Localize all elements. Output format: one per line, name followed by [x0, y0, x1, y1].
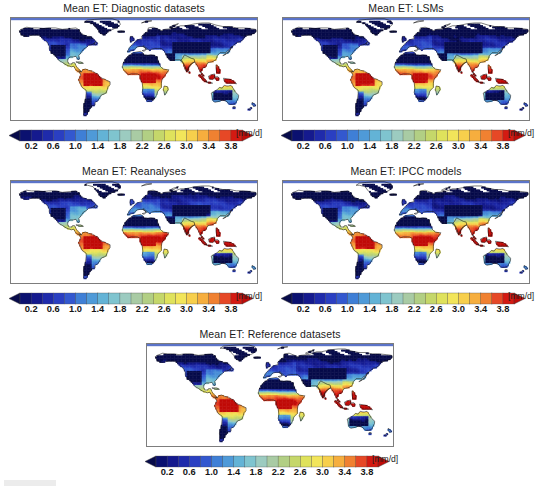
- colorbar-tick-label: 3.8: [224, 304, 237, 314]
- colorbar-segment: [470, 293, 481, 304]
- colorbar-segment: [348, 293, 359, 304]
- panel-title-lsms: Mean ET: LSMs: [274, 2, 538, 14]
- colorbar-tick-label: 3.8: [496, 141, 509, 151]
- polar-band: [11, 18, 257, 20]
- colorbar-segment: [370, 130, 381, 141]
- colorbar-tick-label: 2.2: [136, 304, 149, 314]
- colorbar-segment: [459, 293, 470, 304]
- colorbar-tick-label: 1.4: [363, 141, 376, 151]
- colorbar-tick-label: 2.2: [136, 141, 149, 151]
- colorbar-tick-label: 0.6: [183, 467, 196, 477]
- colorbar-tick-label: 0.2: [297, 141, 310, 151]
- colorbar-reference: [mm/d] 0.20.61.01.41.82.22.63.03.43.8: [144, 454, 396, 488]
- panel-title-reference: Mean ET: Reference datasets: [138, 328, 402, 340]
- map-diagnostic: [10, 17, 258, 121]
- colorbar-under-arrow: [9, 293, 20, 304]
- colorbar-segment: [220, 130, 231, 141]
- colorbar-segment: [156, 456, 167, 467]
- colorbar-segment: [325, 130, 336, 141]
- colorbar-segment: [31, 293, 42, 304]
- et-figure: Mean ET: Diagnostic datasets [mm/d] 0.20…: [0, 0, 542, 495]
- world-et-map: [11, 18, 257, 120]
- colorbar-tick-label: 3.4: [474, 304, 487, 314]
- colorbar-segment: [447, 293, 458, 304]
- colorbar-unit-label: [mm/d]: [508, 128, 534, 138]
- colorbar-segment: [292, 130, 303, 141]
- colorbar-tick-label: 1.0: [69, 141, 82, 151]
- colorbar-segment: [198, 130, 209, 141]
- colorbar-segment: [278, 456, 289, 467]
- colorbar-segment: [153, 293, 164, 304]
- colorbar-segment: [470, 130, 481, 141]
- colorbar-tick-label: 0.2: [25, 141, 38, 151]
- colorbar-tick-label: 0.6: [319, 141, 332, 151]
- colorbar-tick-label: 1.4: [363, 304, 376, 314]
- colorbar-tick-label: 3.0: [452, 304, 465, 314]
- colorbar-tick-label: 0.6: [319, 304, 332, 314]
- panel-title-reanalyses: Mean ET: Reanalyses: [2, 165, 266, 177]
- colorbar-segment: [187, 293, 198, 304]
- colorbar-segment: [481, 130, 492, 141]
- colorbar-segment: [267, 456, 278, 467]
- colorbar-segment: [131, 293, 142, 304]
- colorbar-segment: [223, 456, 234, 467]
- colorbar-tick-label: 2.2: [408, 141, 421, 151]
- colorbar-segment: [403, 293, 414, 304]
- colorbar-segment: [189, 456, 200, 467]
- colorbar-segment: [359, 130, 370, 141]
- colorbar-segment: [381, 130, 392, 141]
- colorbar-segment: [178, 456, 189, 467]
- colorbar-under-arrow: [9, 130, 20, 141]
- colorbar-unit-label: [mm/d]: [236, 128, 262, 138]
- colorbar-segment: [392, 130, 403, 141]
- colorbar-tick-label: 1.0: [341, 304, 354, 314]
- colorbar-segment: [120, 130, 131, 141]
- colorbar-segment: [120, 293, 131, 304]
- colorbar-segment: [209, 293, 220, 304]
- colorbar-tick-label: 3.0: [180, 141, 193, 151]
- colorbar-segment: [53, 130, 64, 141]
- colorbar-under-arrow: [281, 130, 292, 141]
- colorbar-segment: [336, 130, 347, 141]
- colorbar-segment: [175, 293, 186, 304]
- polar-band: [11, 181, 257, 183]
- colorbar-tick-label: 1.0: [205, 467, 218, 477]
- colorbar-segment: [289, 456, 300, 467]
- colorbar-segment: [256, 456, 267, 467]
- colorbar-segment: [245, 456, 256, 467]
- map-ipcc: [282, 180, 530, 284]
- colorbar-segment: [164, 293, 175, 304]
- colorbar-tick-label: 1.8: [385, 304, 398, 314]
- panel-title-ipcc: Mean ET: IPCC models: [274, 165, 538, 177]
- colorbar-segment: [392, 293, 403, 304]
- panel-diagnostic: Mean ET: Diagnostic datasets [mm/d] 0.20…: [2, 2, 266, 165]
- colorbar-tick-label: 1.8: [113, 304, 126, 314]
- colorbar-under-arrow: [145, 456, 156, 467]
- colorbar-segment: [414, 293, 425, 304]
- map-lsms: [282, 17, 530, 121]
- colorbar-segment: [314, 293, 325, 304]
- colorbar-tick-label: 3.0: [180, 304, 193, 314]
- colorbar-tick-label: 3.4: [202, 141, 215, 151]
- colorbar-tick-label: 2.2: [272, 467, 285, 477]
- colorbar-tick-label: 1.0: [341, 141, 354, 151]
- colorbar-segment: [356, 456, 367, 467]
- colorbar-segment: [323, 456, 334, 467]
- colorbar-tick-label: 1.8: [249, 467, 262, 477]
- colorbar-tick-label: 3.8: [360, 467, 373, 477]
- colorbar-tick-label: 0.6: [47, 141, 60, 151]
- colorbar-segment: [20, 293, 31, 304]
- colorbar-segment: [492, 130, 503, 141]
- colorbar-lsms: [mm/d] 0.20.61.01.41.82.22.63.03.43.8: [280, 128, 532, 162]
- colorbar-unit-label: [mm/d]: [508, 291, 534, 301]
- colorbar-diagnostic: [mm/d] 0.20.61.01.41.82.22.63.03.43.8: [8, 128, 260, 162]
- colorbar-segment: [76, 130, 87, 141]
- world-et-map: [283, 181, 529, 283]
- colorbar-tick-label: 2.6: [158, 304, 171, 314]
- colorbar-segment: [370, 293, 381, 304]
- colorbar-segment: [311, 456, 322, 467]
- colorbar-tick-label: 1.4: [227, 467, 240, 477]
- colorbar-segment: [175, 130, 186, 141]
- colorbar-tick-label: 1.8: [385, 141, 398, 151]
- colorbar-ticks: 0.20.61.01.41.82.22.63.03.43.8: [8, 141, 234, 155]
